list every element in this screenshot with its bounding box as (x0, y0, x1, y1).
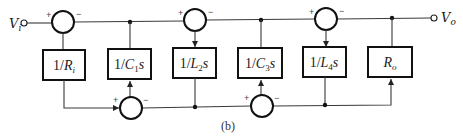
block-1-over-C3s: 1/C3s (238, 48, 282, 78)
sum-junction-bottom-1: + − (113, 95, 148, 119)
svg-text:1/L2s: 1/L2s (180, 56, 209, 73)
svg-text:−: − (274, 93, 279, 103)
block-1-over-L2s: 1/L2s (173, 48, 216, 78)
svg-text:+: + (244, 93, 249, 103)
svg-text:+: + (113, 95, 118, 105)
svg-text:+: + (309, 7, 314, 17)
block-1-over-Ri: 1/Ri (43, 50, 85, 80)
top-signal-path (27, 18, 431, 23)
svg-text:−: − (143, 95, 148, 105)
sum-junction-top-1: + − (46, 9, 81, 33)
figure-caption: (b) (221, 119, 235, 133)
svg-text:1/C1s: 1/C1s (114, 57, 145, 74)
sum-junction-bottom-2: + − (244, 93, 279, 117)
svg-text:1/C3s: 1/C3s (245, 56, 276, 73)
diagram-canvas: Vi Vo + − + − + − 1/Ri 1/C1s 1/L2s (0, 0, 463, 139)
svg-text:+: + (178, 8, 183, 18)
node-bottom-1 (193, 105, 197, 109)
block-1-over-L4s: 1/L4s (303, 47, 346, 77)
output-terminal (431, 15, 437, 21)
output-label: Vo (441, 10, 456, 27)
svg-text:−: − (76, 9, 81, 19)
sum-junction-top-3: + − (309, 6, 344, 30)
svg-text:−: − (339, 6, 344, 16)
svg-text:1/Ri: 1/Ri (53, 58, 75, 75)
sum-junction-top-2: + − (178, 7, 213, 31)
input-label: Vi (9, 16, 21, 33)
input-terminal (21, 20, 27, 26)
svg-text:1/L4s: 1/L4s (310, 55, 339, 72)
svg-text:−: − (208, 7, 213, 17)
node-bottom-2 (323, 103, 327, 107)
block-diagram: Vi Vo + − + − + − 1/Ri 1/C1s 1/L2s (0, 0, 463, 139)
block-Ro: Ro (368, 47, 412, 77)
svg-text:+: + (46, 10, 51, 20)
block-1-over-C1s: 1/C1s (108, 49, 151, 79)
